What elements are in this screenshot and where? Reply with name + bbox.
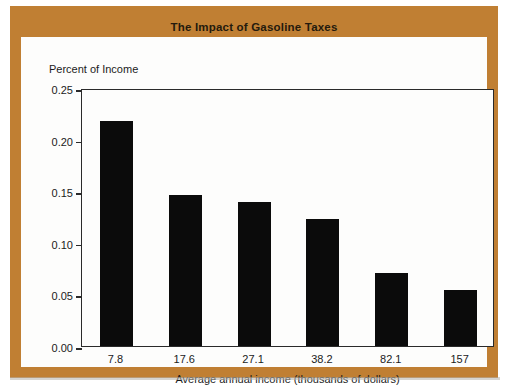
- y-tick-label: 0.10: [52, 239, 73, 251]
- y-tick-label: 0.20: [52, 136, 73, 148]
- x-tick-label: 38.2: [311, 353, 332, 365]
- chart-panel: Percent of Income 0.000.050.100.150.200.…: [21, 37, 487, 367]
- y-axis-label: Percent of Income: [49, 63, 138, 75]
- y-tick-mark: [76, 142, 82, 144]
- bar: [169, 195, 202, 346]
- y-tick-label: 0.05: [52, 290, 73, 302]
- bar: [100, 121, 133, 346]
- y-tick-label: 0.25: [52, 84, 73, 96]
- y-tick-mark: [76, 296, 82, 298]
- chart-title-bar: The Impact of Gasoline Taxes: [21, 17, 487, 37]
- bar: [375, 273, 408, 346]
- x-tick-label: 82.1: [380, 353, 401, 365]
- x-tick-label: 7.8: [108, 353, 123, 365]
- x-tick-label: 27.1: [242, 353, 263, 365]
- bar: [306, 219, 339, 346]
- bar: [238, 202, 271, 346]
- figure-frame: The Impact of Gasoline Taxes Percent of …: [10, 6, 498, 378]
- y-tick-mark: [76, 348, 82, 350]
- x-tick-label: 17.6: [174, 353, 195, 365]
- y-tick-mark: [76, 193, 82, 195]
- x-axis-label: Average annual income (thousands of doll…: [81, 373, 494, 385]
- plot-area: 0.000.050.100.150.200.25: [81, 89, 494, 347]
- chart-title: The Impact of Gasoline Taxes: [170, 21, 337, 33]
- bar: [444, 290, 477, 346]
- y-tick-mark: [76, 90, 82, 92]
- y-tick-label: 0.00: [52, 342, 73, 354]
- y-tick-label: 0.15: [52, 187, 73, 199]
- y-tick-mark: [76, 245, 82, 247]
- x-tick-label: 157: [450, 353, 468, 365]
